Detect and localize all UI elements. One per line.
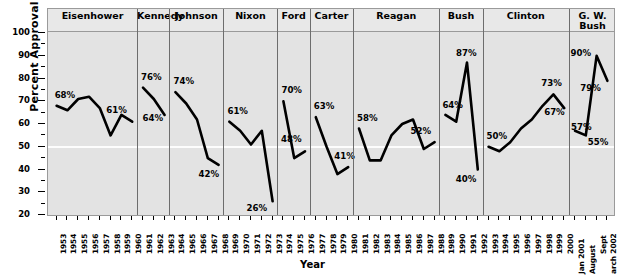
x-tick-mark	[153, 216, 154, 220]
x-tick-mark	[531, 216, 532, 220]
data-label: 55%	[588, 137, 609, 147]
y-tick-minor	[41, 180, 45, 181]
x-tick-label: 1958	[113, 234, 122, 254]
x-tick-mark	[412, 216, 413, 220]
y-tick-mark	[38, 214, 45, 215]
series-line-nixon	[229, 122, 272, 202]
x-tick-label: 1990	[458, 234, 467, 254]
president-label-ford: Ford	[277, 11, 309, 21]
panel-divider	[169, 9, 170, 215]
x-tick-label: 1968	[221, 234, 230, 254]
x-tick-label: 1987	[426, 234, 435, 254]
president-label-nixon: Nixon	[223, 11, 277, 21]
x-tick-label: 1963	[167, 234, 176, 254]
x-tick-mark	[347, 216, 348, 220]
data-label: 52%	[411, 126, 432, 136]
data-label: 61%	[106, 105, 127, 115]
data-label: 67%	[544, 107, 565, 117]
x-tick-mark	[390, 216, 391, 220]
x-tick-mark	[509, 216, 510, 220]
x-tick-mark	[563, 216, 564, 220]
y-tick-label: 100	[0, 27, 30, 37]
y-axis: 1009080706050403020	[0, 0, 47, 277]
x-axis-title: Year	[0, 259, 625, 270]
y-tick-minor	[41, 157, 45, 158]
president-label-reagan: Reagan	[353, 11, 439, 21]
data-label: 61%	[227, 106, 248, 116]
x-tick-label: 1953	[59, 234, 68, 254]
x-tick-label: 1970	[242, 234, 251, 254]
x-tick-mark	[196, 216, 197, 220]
x-tick-label: 1994	[501, 234, 510, 254]
series-line-ford	[283, 101, 305, 158]
x-tick-mark	[315, 216, 316, 220]
y-tick-label: 50	[0, 141, 30, 151]
x-tick-label: Sept	[599, 235, 608, 254]
x-tick-mark	[261, 216, 262, 220]
x-tick-mark	[239, 216, 240, 220]
x-tick-mark	[250, 216, 251, 220]
x-tick-label: 1962	[156, 234, 165, 254]
x-tick-mark	[228, 216, 229, 220]
data-label: 50%	[487, 131, 508, 141]
x-tick-mark	[293, 216, 294, 220]
y-tick-minor	[41, 43, 45, 44]
x-tick-mark	[77, 216, 78, 220]
series-line-carter	[316, 117, 348, 174]
x-tick-label: 1977	[318, 234, 327, 254]
x-tick-mark	[455, 216, 456, 220]
approval-rating-chart: Percent Approval 1009080706050403020 Eis…	[0, 0, 625, 277]
x-tick-label: 1980	[350, 234, 359, 254]
x-tick-label: 1955	[80, 234, 89, 254]
x-tick-mark	[606, 216, 607, 220]
panel-divider	[277, 9, 278, 215]
president-label-bush: Bush	[439, 11, 482, 21]
x-tick-mark	[56, 216, 57, 220]
data-label: 70%	[281, 85, 302, 95]
x-tick-mark	[488, 216, 489, 220]
data-label: 48%	[281, 134, 302, 144]
panel-divider	[353, 9, 354, 215]
president-label-kennedy: Kennedy	[137, 11, 169, 21]
x-tick-label: 1992	[480, 234, 489, 254]
x-tick-label: 1989	[447, 234, 456, 254]
series-line-clinton	[489, 94, 565, 151]
x-tick-mark	[110, 216, 111, 220]
x-tick-mark	[369, 216, 370, 220]
y-tick-mark	[38, 146, 45, 147]
data-label: 26%	[247, 203, 268, 213]
x-tick-mark	[174, 216, 175, 220]
series-line-johnson	[175, 92, 218, 165]
x-tick-mark	[207, 216, 208, 220]
x-tick-label: 1985	[404, 234, 413, 254]
data-label: 42%	[199, 169, 220, 179]
x-tick-label: 1965	[188, 234, 197, 254]
data-label: 58%	[357, 113, 378, 123]
y-tick-mark	[38, 123, 45, 124]
x-tick-mark	[218, 216, 219, 220]
panel-divider	[483, 9, 484, 215]
x-tick-mark	[434, 216, 435, 220]
x-tick-label: 1966	[199, 234, 208, 254]
x-tick-mark	[498, 216, 499, 220]
x-tick-label: 1973	[275, 234, 284, 254]
approval-lines	[48, 9, 615, 216]
x-tick-mark	[552, 216, 553, 220]
x-tick-label: 1984	[393, 234, 402, 254]
data-label: 57%	[571, 122, 592, 132]
x-tick-mark	[380, 216, 381, 220]
panel-divider	[569, 9, 570, 215]
x-tick-label: 1971	[253, 234, 262, 254]
x-tick-mark	[272, 216, 273, 220]
data-label: 68%	[55, 90, 76, 100]
x-tick-label: 1959	[123, 234, 132, 254]
president-label-clinton: Clinton	[483, 11, 569, 21]
y-tick-label: 20	[0, 209, 30, 219]
x-tick-mark	[99, 216, 100, 220]
data-label: 73%	[541, 78, 562, 88]
x-tick-mark	[304, 216, 305, 220]
y-tick-minor	[41, 134, 45, 135]
x-tick-label: 1960	[134, 234, 143, 254]
x-tick-mark	[282, 216, 283, 220]
y-tick-mark	[38, 100, 45, 101]
